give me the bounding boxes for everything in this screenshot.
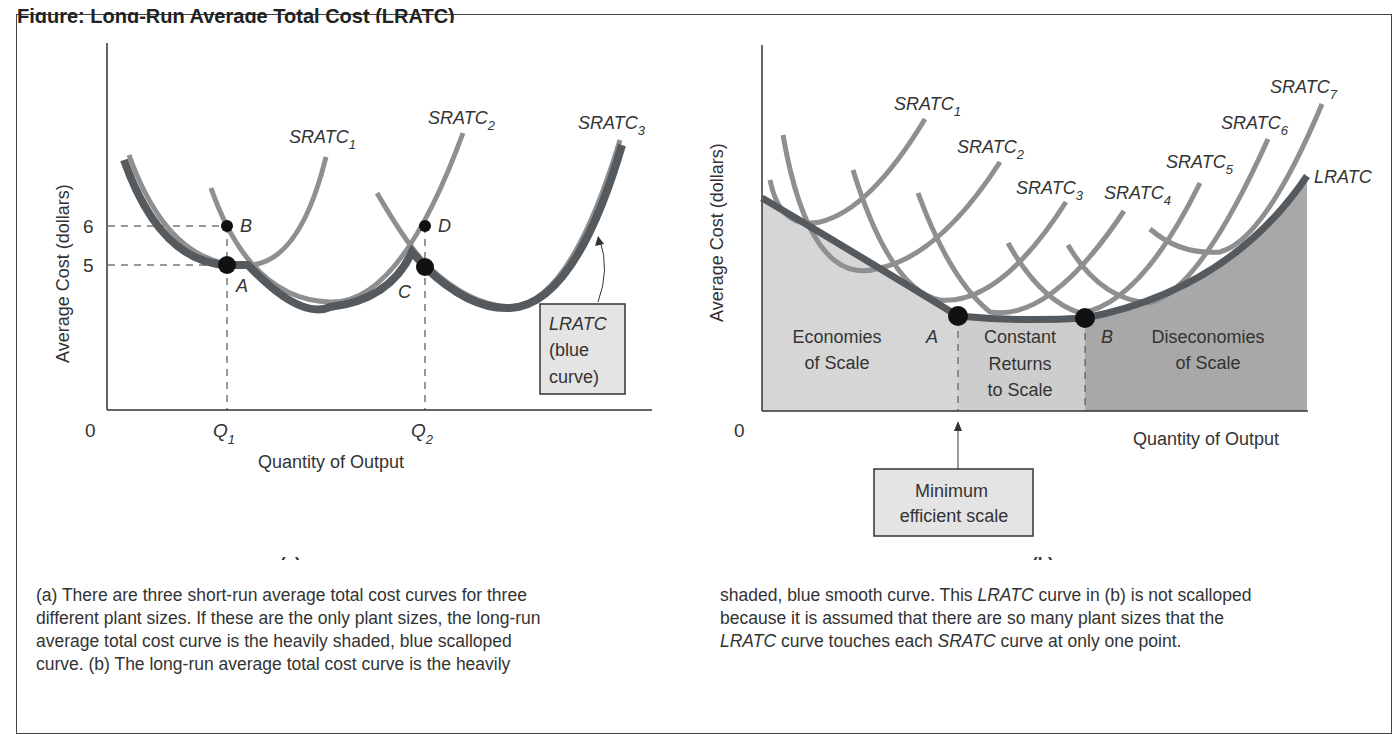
point-c-label: C xyxy=(398,282,412,302)
b-sratc4-label: SRATC4 xyxy=(1104,183,1171,208)
caption-right: shaded, blue smooth curve. This LRATC cu… xyxy=(720,584,1390,653)
svg-text:Returns: Returns xyxy=(988,354,1051,374)
point-a-label: A xyxy=(235,276,248,296)
mes-arrowhead-icon xyxy=(954,421,962,431)
svg-text:to Scale: to Scale xyxy=(987,380,1052,400)
sratc2-label: SRATC2 xyxy=(428,108,496,133)
xtick-q1: Q1 xyxy=(213,420,235,447)
lratc-callout-arrow xyxy=(598,240,605,302)
origin-a: 0 xyxy=(85,420,96,441)
sratc3-label: SRATC3 xyxy=(578,113,646,138)
sratc1-label: SRATC1 xyxy=(289,127,356,152)
point-b xyxy=(221,220,233,232)
chart-b-xlabel: Quantity of Output xyxy=(1133,429,1279,449)
chart-a-ylabel: Average Cost (dollars) xyxy=(53,184,73,363)
chart-a-xlabel: Quantity of Output xyxy=(258,452,404,472)
chart-a-guides xyxy=(108,226,425,410)
b-sratc6-label: SRATC6 xyxy=(1221,113,1289,138)
panel-a-label: (a) xyxy=(280,554,301,560)
chart-a: A B C D SRATC1 SRATC2 SRATC3 6 5 0 Q1 Q2… xyxy=(0,0,700,560)
panel-b-label: (b) xyxy=(1032,554,1054,560)
chart-b: A B SRATC1 SRATC2 SRATC3 SRATC4 SRATC5 S… xyxy=(700,0,1399,560)
point-a-b xyxy=(948,306,968,326)
b-sratc7-label: SRATC7 xyxy=(1270,77,1338,102)
svg-text:of Scale: of Scale xyxy=(804,353,869,373)
sratc1-curve xyxy=(129,155,326,265)
xtick-q2: Q2 xyxy=(411,420,434,447)
ytick-6: 6 xyxy=(83,216,94,237)
point-a-b-label: A xyxy=(925,327,938,347)
arrowhead-icon xyxy=(595,236,604,246)
point-a xyxy=(218,256,236,274)
ytick-5: 5 xyxy=(83,255,94,276)
constant-label: Constant xyxy=(984,327,1056,347)
b-sratc1-curve xyxy=(770,119,925,223)
point-b-b-label: B xyxy=(1101,327,1113,347)
chart-b-ylabel: Average Cost (dollars) xyxy=(707,143,727,322)
b-sratc4-curve xyxy=(918,193,1124,313)
economies-label: Economies xyxy=(792,327,881,347)
point-b-label: B xyxy=(240,216,252,236)
sratc3-curve xyxy=(377,140,620,307)
point-d xyxy=(419,220,431,232)
diseconomies-label: Diseconomies xyxy=(1151,327,1264,347)
origin-b: 0 xyxy=(734,420,745,441)
chart-a-sratc-curves xyxy=(129,133,620,307)
economies-region xyxy=(762,198,958,411)
b-sratc5-label: SRATC5 xyxy=(1166,152,1234,177)
b-sratc2-label: SRATC2 xyxy=(957,137,1025,162)
point-b-b xyxy=(1075,308,1095,328)
point-d-label: D xyxy=(438,216,451,236)
caption-left: (a) There are three short-run average to… xyxy=(36,584,696,676)
svg-text:of Scale: of Scale xyxy=(1175,353,1240,373)
point-c xyxy=(416,258,434,276)
b-sratc3-label: SRATC3 xyxy=(1016,178,1084,203)
b-lratc-label: LRATC xyxy=(1314,167,1373,187)
b-sratc1-label: SRATC1 xyxy=(894,94,961,119)
